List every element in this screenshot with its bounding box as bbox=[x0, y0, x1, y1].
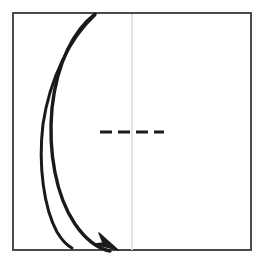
origami-diagram-canvas: Origami fold step diagram Curved double-… bbox=[0, 0, 260, 264]
diagram-svg bbox=[0, 0, 260, 264]
